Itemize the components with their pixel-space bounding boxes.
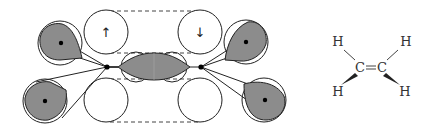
ethylene-structure: C C H H H H (332, 34, 411, 99)
carbon-nucleus-left (104, 64, 109, 69)
spin-down-arrow-icon: ↓ (195, 25, 206, 40)
sp2-lobe-lower-right (242, 78, 286, 122)
p-orbital-bottom-left (84, 78, 128, 122)
atom-h-bottom-left: H (332, 84, 343, 99)
atom-c1: C (355, 60, 365, 75)
sp2-lobe-upper-right (224, 20, 268, 64)
p-orbital-bottom-right (178, 78, 222, 122)
orbital-diagram: ↑ ↓ (0, 0, 432, 127)
atom-h-bottom-right: H (399, 84, 410, 99)
atom-h-top-right: H (400, 34, 411, 49)
carbon-nucleus-right (198, 64, 203, 69)
sigma-cc-overlap (107, 52, 201, 82)
atom-h-top-left: H (332, 34, 343, 49)
sp2-lobe-lower-left (23, 79, 67, 123)
atom-c2: C (377, 60, 387, 75)
spin-up-arrow-icon: ↑ (101, 25, 112, 40)
sp2-lobe-upper-left (38, 21, 82, 65)
